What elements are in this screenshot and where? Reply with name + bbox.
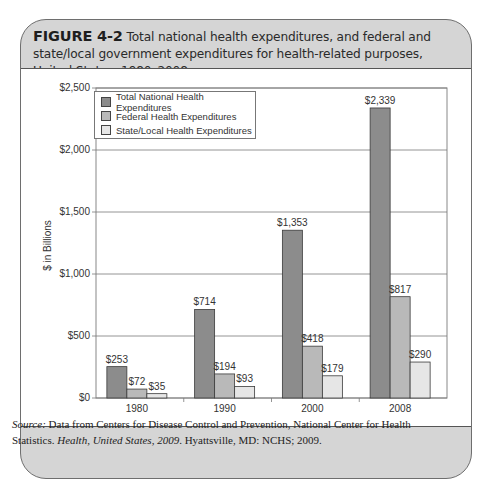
bar	[235, 386, 255, 398]
bar-value-label: $93	[223, 373, 267, 384]
y-tick-label: $2,000	[30, 144, 90, 155]
bar	[282, 230, 302, 398]
bar-value-label: $35	[135, 381, 179, 392]
y-tick-label: $2,500	[30, 82, 90, 93]
bar-value-label: $194	[203, 361, 247, 372]
legend-label-federal: Federal Health Expenditures	[116, 111, 236, 122]
x-category-label: 2000	[287, 403, 337, 414]
y-tick-label: $0	[30, 392, 90, 403]
bar-value-label: $714	[183, 296, 227, 307]
bar-value-label: $1,353	[270, 217, 314, 228]
bar-value-label: $817	[378, 284, 422, 295]
bar-chart: $ in Billions Total National Health Expe…	[0, 0, 490, 487]
legend-swatch-state-local	[101, 125, 111, 135]
legend-swatch-total	[101, 97, 111, 107]
bar	[147, 394, 167, 398]
bar-value-label: $2,339	[358, 95, 402, 106]
bar	[390, 297, 410, 398]
legend-label-state-local: State/Local Health Expenditures	[116, 125, 252, 136]
legend-item-federal: Federal Health Expenditures	[101, 109, 255, 123]
chart-legend: Total National Health Expenditures Feder…	[94, 91, 256, 139]
bar	[195, 309, 215, 398]
bar	[410, 362, 430, 398]
x-category-label: 2008	[375, 403, 425, 414]
legend-item-state-local: State/Local Health Expenditures	[101, 123, 255, 137]
bar-value-label: $418	[290, 333, 334, 344]
y-tick-label: $1,000	[30, 268, 90, 279]
bar	[322, 376, 342, 398]
legend-item-total: Total National Health Expenditures	[101, 95, 255, 109]
legend-swatch-federal	[101, 111, 111, 121]
bar-value-label: $179	[310, 363, 354, 374]
x-category-label: 1990	[200, 403, 250, 414]
y-tick-label: $1,500	[30, 206, 90, 217]
bar-value-label: $290	[398, 349, 442, 360]
bar-value-label: $253	[95, 354, 139, 365]
bar	[370, 108, 390, 398]
y-tick-label: $500	[30, 330, 90, 341]
x-category-label: 1980	[112, 403, 162, 414]
